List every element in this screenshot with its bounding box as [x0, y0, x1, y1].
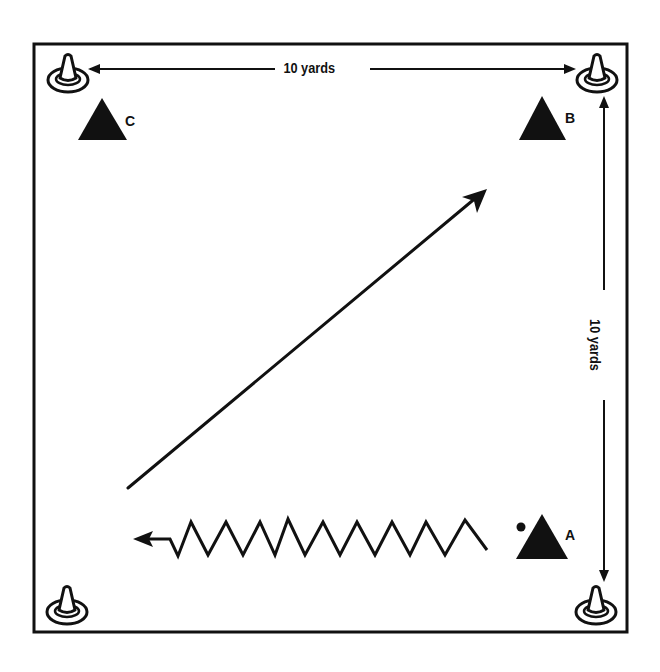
player-a-triangle-icon	[516, 514, 568, 559]
cone-icon	[576, 587, 616, 625]
top-dimension-label: 10 yards	[280, 60, 339, 75]
player-b-triangle-icon	[519, 96, 566, 140]
dribble-zigzag-path	[148, 519, 487, 556]
drill-diagram: 10 yards 10 yards C B A	[0, 0, 660, 672]
pass-arrow	[128, 196, 478, 488]
player-c-label: C	[125, 114, 135, 128]
right-dimension-label: 10 yards	[588, 316, 603, 375]
field-svg	[0, 0, 660, 672]
ball-icon	[517, 523, 526, 532]
player-b-label: B	[565, 111, 575, 125]
pass-arrowhead-icon	[462, 189, 487, 213]
player-c-triangle-icon	[78, 98, 127, 140]
cone-icon	[47, 587, 87, 625]
player-a-label: A	[565, 528, 575, 542]
cone-icon	[577, 55, 617, 93]
cone-icon	[48, 55, 88, 93]
